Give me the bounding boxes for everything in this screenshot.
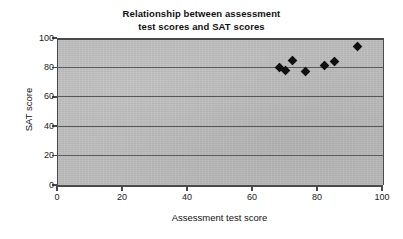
x-tick-label-0: 0	[37, 193, 77, 202]
gridline-y-80	[58, 67, 383, 68]
x-tick-label-40: 40	[167, 193, 207, 202]
x-tick-label-20: 20	[102, 193, 142, 202]
chart-title-line-1: Relationship between assessment	[0, 8, 403, 21]
data-point	[300, 67, 310, 77]
plot-area	[57, 38, 384, 185]
scatter-chart-figure: Relationship between assessment test sco…	[0, 0, 403, 239]
chart-title: Relationship between assessment test sco…	[0, 8, 403, 33]
y-axis-title: SAT score	[23, 40, 34, 180]
x-tick-0	[56, 186, 58, 191]
y-tick-label-100: 100	[14, 34, 54, 43]
x-tick-label-100: 100	[362, 193, 402, 202]
x-tick-label-80: 80	[297, 193, 337, 202]
gridline-y-20	[58, 155, 383, 156]
y-tick-label-80: 80	[14, 63, 54, 72]
x-tick-60	[251, 186, 253, 191]
chart-title-line-2: test scores and SAT scores	[0, 21, 403, 34]
x-tick-40	[186, 186, 188, 191]
x-tick-20	[121, 186, 123, 191]
gridline-y-100	[58, 38, 383, 40]
data-point	[352, 42, 362, 52]
x-axis-line	[56, 185, 383, 187]
y-tick-label-40: 40	[14, 122, 54, 131]
x-tick-label-60: 60	[232, 193, 272, 202]
x-tick-80	[316, 186, 318, 191]
x-axis-title: Assessment test score	[57, 212, 382, 223]
y-tick-label-60: 60	[14, 92, 54, 101]
gridline-y-40	[58, 126, 383, 127]
y-tick-label-20: 20	[14, 151, 54, 160]
gridline-y-60	[58, 96, 383, 97]
data-point	[320, 61, 330, 71]
x-tick-100	[381, 186, 383, 191]
data-point	[287, 55, 297, 65]
y-tick-label-0: 0	[14, 181, 54, 190]
data-point	[329, 57, 339, 67]
